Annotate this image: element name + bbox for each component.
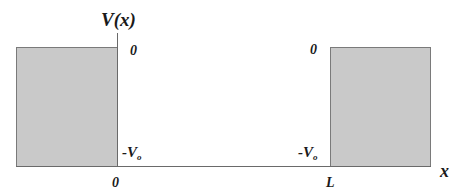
y-axis-label: V(x): [101, 10, 136, 29]
x-axis-line: [16, 166, 431, 167]
y-axis-line: [117, 33, 118, 167]
potential-well-diagram: V(x) 0 0 -Vo -Vo 0 L x: [0, 0, 466, 194]
x-tick-L: L: [326, 176, 335, 190]
well-depth-label-left: -Vo: [122, 145, 142, 162]
well-depth-subscript-right: o: [313, 152, 318, 162]
zero-level-label-left: 0: [130, 44, 137, 58]
well-depth-text-left: -V: [122, 144, 137, 160]
right-barrier-region: [330, 47, 431, 167]
well-depth-subscript-left: o: [137, 152, 142, 162]
zero-level-label-right: 0: [310, 43, 317, 57]
well-depth-label-right: -Vo: [298, 145, 318, 162]
well-depth-text-right: -V: [298, 144, 313, 160]
x-tick-zero: 0: [112, 176, 119, 190]
left-barrier-region: [16, 47, 118, 167]
x-axis-label: x: [440, 162, 449, 180]
